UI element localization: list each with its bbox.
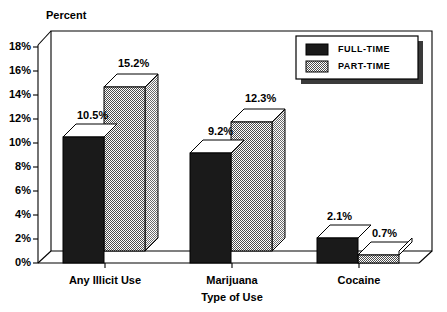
value-label-full-time-cocaine: 2.1%	[327, 211, 352, 222]
y-tick-label-4: 4%	[0, 209, 31, 220]
y-tick-label-12: 12%	[0, 113, 31, 124]
y-tick-label-0: 0%	[0, 257, 31, 268]
x-axis-title: Type of Use	[172, 292, 292, 303]
x-category-label-any-illicit-use: Any Illicit Use	[45, 275, 165, 286]
bar-chart: Percent 18% 16% 14% 12% 10% 8% 6% 4% 2% …	[0, 0, 447, 312]
value-label-full-time-marijuana: 9.2%	[208, 126, 233, 137]
dark-solid-swatch	[306, 44, 328, 55]
gray-dither-swatch	[306, 61, 328, 72]
bar-part-time-any-illicit-use	[104, 74, 158, 251]
x-axis-ticks	[105, 263, 359, 268]
x-category-label-cocaine: Cocaine	[299, 275, 419, 286]
legend-item-label-full-time[interactable]: FULL-TIME	[338, 45, 390, 54]
y-tick-label-18: 18%	[0, 41, 31, 52]
value-label-part-time-marijuana: 12.3%	[245, 93, 276, 104]
x-category-label-marijuana: Marijuana	[172, 275, 292, 286]
y-tick-label-6: 6%	[0, 185, 31, 196]
legend-item-label-part-time[interactable]: PART-TIME	[338, 62, 390, 71]
bar-part-time-marijuana	[231, 109, 285, 251]
value-label-part-time-any-illicit-use: 15.2%	[118, 58, 149, 69]
value-label-full-time-any-illicit-use: 10.5%	[77, 110, 108, 121]
y-tick-label-10: 10%	[0, 137, 31, 148]
y-tick-label-2: 2%	[0, 233, 31, 244]
y-tick-label-8: 8%	[0, 161, 31, 172]
value-label-part-time-cocaine: 0.7%	[372, 228, 397, 239]
y-tick-label-16: 16%	[0, 65, 31, 76]
y-tick-label-14: 14%	[0, 89, 31, 100]
y-axis-ticks	[33, 47, 38, 263]
y-axis-title: Percent	[46, 10, 86, 21]
